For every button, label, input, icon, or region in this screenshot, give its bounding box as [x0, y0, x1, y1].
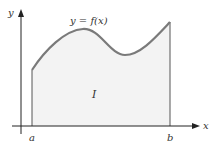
area-label: I: [91, 88, 97, 101]
integral-diagram: y = f(x) I x y a b: [0, 0, 221, 155]
x-axis-label: x: [203, 120, 209, 131]
x-axis-arrow-icon: [192, 123, 200, 129]
curve-label: y = f(x): [69, 15, 108, 26]
lower-bound-label: a: [29, 132, 35, 143]
y-axis-arrow-icon: [18, 9, 24, 17]
upper-bound-label: b: [167, 132, 173, 143]
y-axis-label: y: [7, 7, 14, 18]
